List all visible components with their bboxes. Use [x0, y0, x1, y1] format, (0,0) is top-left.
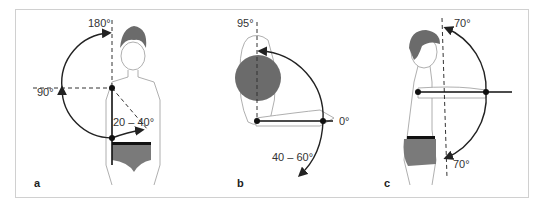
head-top — [235, 55, 281, 101]
boy-side-outline — [404, 66, 436, 185]
panel-c: 70° 70° c — [384, 17, 512, 189]
panel-label-c: c — [384, 177, 390, 189]
angle-label-70-top: 70° — [454, 17, 471, 29]
angle-label-20-40: 20 – 40° — [113, 116, 154, 128]
waistband-side — [407, 136, 435, 139]
panel-a: 180° 90° 20 – 40° a — [33, 17, 160, 189]
underwear-side — [404, 139, 437, 166]
panel-b: 95° 0° 40 – 60° b — [235, 17, 350, 189]
shoulder-rom-figure: 180° 90° 20 – 40° a 95° 0° 40 – 60° b 7 — [0, 0, 545, 209]
angle-label-0: 0° — [339, 115, 350, 127]
angle-label-40-60: 40 – 60° — [272, 151, 313, 163]
angle-label-90: 90° — [37, 86, 54, 98]
underwear — [112, 145, 151, 172]
angle-label-180: 180° — [88, 17, 111, 29]
waistband — [112, 142, 151, 145]
angle-label-95: 95° — [237, 17, 254, 29]
panel-label-a: a — [34, 177, 41, 189]
angle-label-70-bottom: 70° — [453, 158, 470, 170]
panel-label-b: b — [237, 177, 244, 189]
